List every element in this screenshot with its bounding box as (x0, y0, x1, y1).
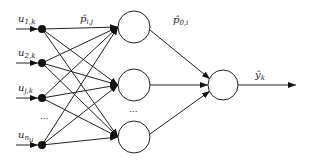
input-label-1: u1,k (18, 14, 35, 26)
output-label: ŷk (255, 70, 265, 82)
input-node-nu (38, 141, 46, 149)
hidden-neuron-n (118, 121, 150, 153)
hidden-neuron-1 (118, 11, 150, 43)
input-node-2 (38, 59, 46, 67)
hidden-output-connections (150, 30, 210, 134)
input-ellipsis: ... (40, 112, 49, 121)
input-label-2: u2,k (18, 48, 35, 60)
hidden-neuron-2 (118, 69, 150, 101)
input-label-nu: unu (18, 130, 33, 144)
input-node-1 (38, 25, 46, 33)
input-hidden-connections (42, 27, 118, 145)
neural-network-diagram (0, 0, 313, 163)
hidden-ellipsis: ... (129, 105, 138, 114)
input-node-j (38, 94, 46, 102)
output-neuron (208, 70, 238, 100)
input-label-j: uj,k (18, 83, 33, 95)
weight-label-input-hidden: p̂i,j (80, 14, 93, 26)
weight-label-hidden-output: p̂0,i (173, 15, 188, 27)
